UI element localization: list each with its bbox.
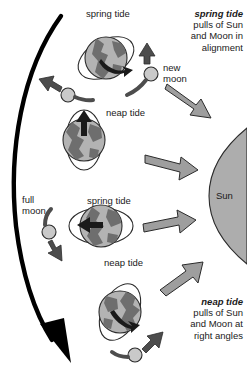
tides-diagram: spring tide neap tide spring tide neap t… <box>0 0 247 374</box>
sun-pull-arrow-1 <box>165 84 211 118</box>
callout-neap-line2: and Moon at <box>190 318 243 329</box>
sun-pull-arrow-4 <box>160 262 203 296</box>
tide-label-spring-left: spring tide <box>87 196 131 207</box>
callout-neap-line3: right angles <box>194 330 243 341</box>
moon-orbit-tick-1 <box>127 80 146 95</box>
moon-orbit-tick-3 <box>45 209 51 225</box>
earth-system-3-spring-full-moon <box>42 205 133 261</box>
tide-label-neap-lower: neap tide <box>104 258 143 269</box>
moon-pull-arrow-2 <box>39 76 62 92</box>
callout-neap-heading: neap tide <box>133 296 243 307</box>
earth-system-2-neap <box>39 76 105 170</box>
moon-orbit-tick-2 <box>75 97 93 100</box>
moon-orbit-direction-arrow <box>14 16 71 363</box>
full-moon-label-line2: moon <box>22 205 46 216</box>
moon-pull-arrow-3 <box>48 240 62 261</box>
sun-label: Sun <box>216 190 233 201</box>
callout-spring-line3: alignment <box>202 42 243 53</box>
sun-pull-arrow-2 <box>145 155 198 180</box>
callout-spring-line2: and Moon in <box>191 30 243 41</box>
new-moon-label: new moon <box>163 63 187 85</box>
quarter-moon-body-lower <box>128 348 142 362</box>
full-moon-body <box>42 225 56 239</box>
full-moon-label: full moon <box>22 195 46 217</box>
new-moon-label-line2: moon <box>163 73 187 84</box>
callout-spring-heading: spring tide <box>133 8 243 19</box>
full-moon-label-line1: full <box>22 194 34 205</box>
callout-spring-line1: pulls of Sun <box>193 19 243 30</box>
callout-neap-tide: neap tide pulls of Sun and Moon at right… <box>133 296 243 341</box>
callout-neap-line1: pulls of Sun <box>193 307 243 318</box>
callout-spring-tide: spring tide pulls of Sun and Moon in ali… <box>133 8 243 53</box>
quarter-moon-body-upper <box>61 88 75 102</box>
tide-label-neap-upper: neap tide <box>106 108 145 119</box>
moon-orbit-tick-4 <box>112 352 128 357</box>
tide-label-spring-top: spring tide <box>86 9 130 20</box>
new-moon-label-line1: new <box>163 62 180 73</box>
sun-pull-arrow-3 <box>143 210 196 233</box>
